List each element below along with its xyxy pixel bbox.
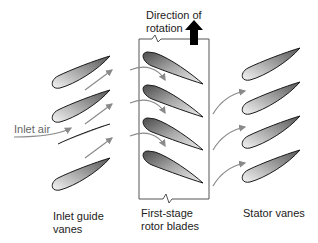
- guide-vane-2: [52, 90, 110, 122]
- guide-vane-4: [52, 158, 110, 190]
- rotor-blade-2: [143, 85, 203, 117]
- guide-vane-3: [58, 124, 110, 144]
- rotor-label-line1: First-stage: [141, 207, 199, 220]
- stator-vanes-label: Stator vanes: [243, 207, 305, 220]
- guide-flow-arrows: [85, 70, 112, 158]
- stator-vane-2: [242, 82, 300, 114]
- rotor-label-line2: rotor blades: [141, 220, 199, 233]
- stator-vane-1: [242, 48, 300, 80]
- inlet-guide-vanes: [52, 56, 110, 190]
- direction-label-line1: Direction of: [146, 9, 202, 22]
- stator-vane-3: [242, 116, 300, 148]
- stator-vane-4: [242, 150, 300, 182]
- inlet-guide-vanes-label: Inlet guide vanes: [53, 210, 104, 236]
- rotor-blade-1: [143, 52, 203, 84]
- guide-vanes-label-line2: vanes: [53, 223, 104, 236]
- direction-of-rotation-label: Direction of rotation: [146, 9, 202, 35]
- stator-flow-arrows: [213, 91, 245, 186]
- rotor-blade-3: [143, 118, 203, 150]
- rotor-blades: [143, 52, 203, 183]
- stator-vanes: [242, 48, 300, 182]
- guide-vane-1: [52, 56, 110, 88]
- direction-label-line2: rotation: [146, 22, 202, 35]
- rotor-blades-label: First-stage rotor blades: [141, 207, 199, 233]
- rotor-blade-4: [143, 151, 203, 183]
- guide-vanes-label-line1: Inlet guide: [53, 210, 104, 223]
- inlet-air-label: Inlet air: [14, 123, 50, 136]
